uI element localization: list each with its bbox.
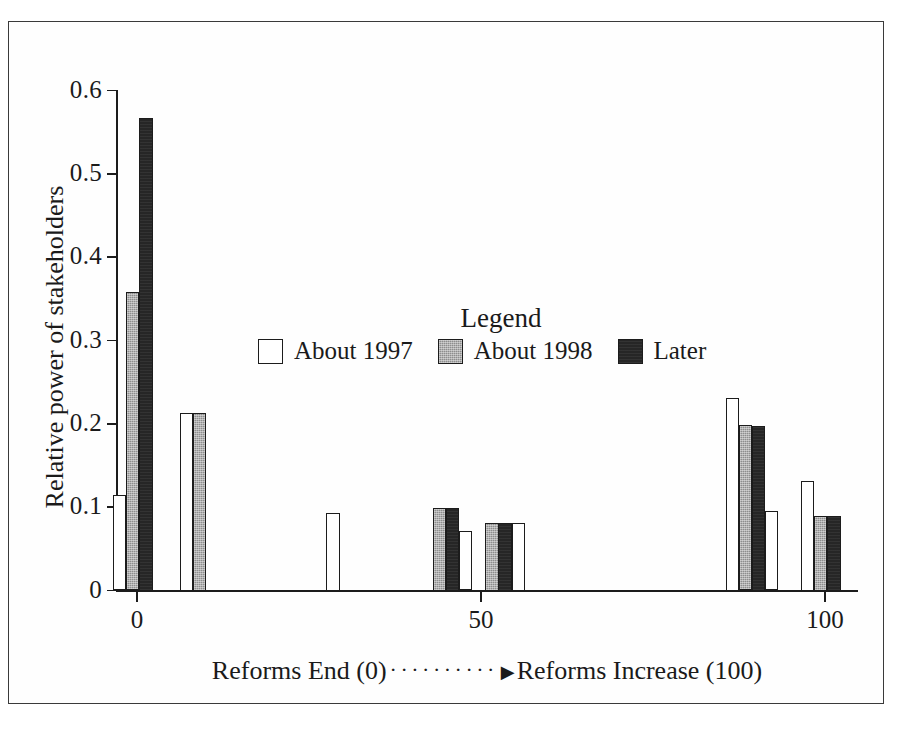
y-axis-tick (107, 90, 117, 92)
x-axis-title: Reforms End (0)··········▶Reforms Increa… (116, 655, 858, 687)
y-axis-tick (107, 173, 117, 175)
x-axis-tick (824, 591, 826, 602)
x-axis-tick (480, 591, 482, 602)
arrow-right-icon: ▶ (501, 662, 517, 682)
bar (326, 513, 339, 591)
white-swatch-icon (258, 339, 283, 364)
legend-entry-label: Later (654, 338, 707, 364)
legend-entry-label: About 1998 (474, 338, 593, 364)
bar (459, 531, 472, 590)
x-axis-title-dots: ·········· (387, 657, 501, 682)
legend-title: Legend (258, 302, 698, 334)
y-axis-tick-label-text: 0 (42, 577, 102, 602)
x-axis-tick-label: 100 (785, 606, 865, 634)
bar (752, 426, 765, 591)
bar (433, 508, 446, 591)
bar (801, 481, 814, 591)
bar (126, 292, 139, 590)
y-axis-tick-label: 0 (30, 577, 102, 603)
bar (139, 118, 152, 591)
bar (726, 398, 739, 591)
y-axis-tick-label: 0.6 (30, 77, 102, 103)
bar (498, 523, 511, 591)
legend-entry: Later (618, 338, 707, 364)
y-axis-title: Relative power of stakeholders (40, 117, 70, 577)
y-axis-tick (107, 423, 117, 425)
legend-entry: About 1998 (438, 338, 593, 364)
bar (446, 508, 459, 591)
x-axis-title-right: Reforms Increase (100) (517, 656, 762, 685)
legend: Legend About 1997About 1998Later (258, 302, 698, 364)
bar (113, 495, 126, 591)
bar-chart-plot-area: 00.10.20.30.40.50.6 050100 Relative powe… (0, 0, 897, 747)
bar (485, 523, 498, 591)
bar (180, 413, 193, 591)
x-axis-title-left: Reforms End (0) (212, 656, 387, 685)
y-axis-tick (107, 256, 117, 258)
x-axis-tick (136, 591, 138, 602)
legend-entry-label: About 1997 (294, 338, 413, 364)
legend-entry: About 1997 (258, 338, 413, 364)
bar (765, 511, 778, 590)
gray-swatch-icon (438, 339, 463, 364)
black-swatch-icon (618, 339, 643, 364)
x-axis-tick-label: 50 (441, 606, 521, 634)
bar (739, 425, 752, 591)
legend-entries: About 1997About 1998Later (258, 338, 698, 364)
bar (814, 516, 827, 591)
bar (827, 516, 840, 591)
bar (512, 523, 525, 591)
y-axis-tick-label-text: 0.6 (42, 77, 102, 102)
bar (193, 413, 206, 591)
y-axis-tick (107, 340, 117, 342)
x-axis-tick-label: 0 (97, 606, 177, 634)
